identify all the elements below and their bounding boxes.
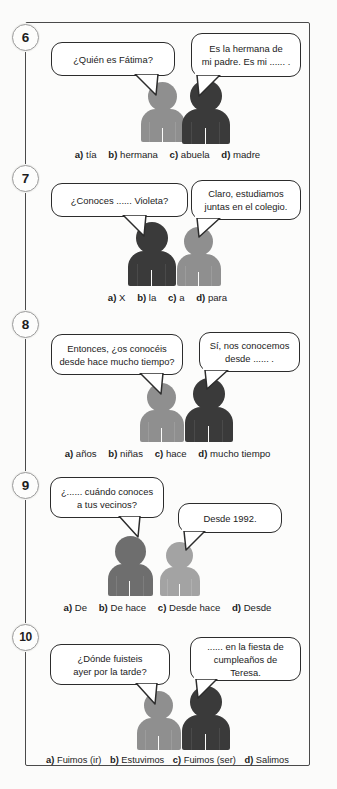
speech-bubble-8-answer-line-1: Sí, nos conocemos [210, 339, 290, 352]
option-7-a[interactable]: a) X [108, 292, 126, 303]
figure-arm-seam-left [185, 266, 186, 286]
option-letter: a) [65, 448, 74, 459]
option-letter: b) [137, 292, 146, 303]
figure-arm-seam-right [219, 728, 220, 750]
option-letter: c) [173, 755, 181, 765]
option-text: mucho tiempo [210, 448, 270, 459]
option-letter: d) [198, 448, 207, 459]
figure-body-seam [198, 272, 199, 286]
option-letter: c) [158, 602, 167, 613]
figure-body [108, 564, 153, 596]
speech-bubble-10-question-line-2: ayer por la tarde? [73, 665, 146, 678]
speech-bubble-6-question-line-1: ¿Quién es Fátima? [73, 53, 153, 66]
option-8-b[interactable]: b) niñas [108, 448, 143, 459]
speech-bubble-tail-9-answer [180, 530, 206, 552]
figure-body-seam [205, 734, 206, 750]
speech-bubble-tail-6-question [134, 73, 160, 95]
figure-9-left [108, 536, 153, 596]
option-text: la [149, 292, 156, 303]
figure-body-seam [162, 128, 163, 142]
speech-bubble-tail-7-question [122, 214, 148, 236]
exercise-number-badge-9: 9 [12, 472, 39, 499]
speech-bubble-10-answer: ...... en la fiesta de cumpleaños de Ter… [190, 637, 301, 681]
option-text: madre [233, 149, 260, 160]
figure-body-seam [129, 581, 130, 596]
speech-bubble-10-answer-line-2: cumpleaños de Teresa. [198, 653, 293, 679]
option-8-c[interactable]: c) hace [155, 448, 187, 459]
speech-bubble-9-answer-line-1: Desde 1992. [203, 512, 256, 525]
option-6-a[interactable]: a) tía [75, 149, 97, 160]
option-text: De [75, 602, 87, 613]
figure-arm-seam-right [211, 266, 212, 286]
figure-arm-seam-right [175, 122, 176, 142]
answer-options-9: a) De b) De hace c) Desde hace d) Desde [25, 602, 310, 613]
answer-options-7: a) X b) la c) a d) para [25, 292, 310, 303]
option-text: hermana [120, 149, 158, 160]
option-7-c[interactable]: c) a [168, 292, 185, 303]
figure-arm-seam-left [167, 579, 168, 596]
figure-arm-seam-left [145, 730, 146, 750]
figure-arm-seam-right [171, 730, 172, 750]
speech-bubble-9-question: ¿...... cuándo conoces a tus vecinos? [50, 477, 164, 518]
option-7-d[interactable]: d) para [196, 292, 227, 303]
option-text: años [76, 448, 97, 459]
speech-bubble-7-answer-line-1: Claro, estudiamos [205, 187, 288, 200]
option-text: hace [166, 448, 187, 459]
option-6-b[interactable]: b) hermana [108, 149, 158, 160]
exercise-number-badge-8: 8 [12, 311, 39, 338]
option-letter: b) [99, 602, 108, 613]
option-9-c[interactable]: c) Desde hace [158, 602, 220, 613]
option-10-a[interactable]: a) Fuimos (ir) [46, 755, 101, 765]
option-letter: a) [75, 149, 84, 160]
option-text: niñas [120, 448, 143, 459]
option-10-b[interactable]: b) Estuvimos [110, 755, 164, 765]
speech-bubble-10-answer-line-1: ...... en la fiesta de [198, 640, 293, 653]
figure-arm-seam-right [191, 579, 192, 596]
figure-body-seam [161, 428, 162, 442]
option-letter: d) [221, 149, 230, 160]
figure-arm-seam-left [149, 122, 150, 142]
answer-options-6: a) tía b) hermana c) abuela d) madre [25, 149, 310, 160]
speech-bubble-6-answer-line-1: Es la hermana de [202, 42, 291, 55]
speech-bubble-tail-8-question [139, 372, 165, 394]
exercise-number-badge-6: 6 [12, 24, 39, 51]
speech-bubble-6-answer-line-2: mi padre. Es mi ...... . [202, 55, 291, 68]
figure-arm-seam-left [194, 420, 195, 442]
speech-bubble-6-answer: Es la hermana de mi padre. Es mi ...... … [191, 33, 301, 77]
speech-bubble-8-question-line-2: desde hace mucho tiempo? [59, 355, 174, 368]
option-7-b[interactable]: b) la [137, 292, 156, 303]
option-8-a[interactable]: a) años [65, 448, 97, 459]
option-text: a [179, 292, 184, 303]
option-text: Desde [244, 602, 272, 613]
worksheet-page: 6 ¿Quién es Fátima? Es la hermana de mi … [0, 0, 337, 789]
option-text: Fuimos (ir) [57, 755, 101, 765]
option-6-d[interactable]: d) madre [221, 149, 260, 160]
option-9-d[interactable]: d) Desde [232, 602, 271, 613]
option-letter: a) [64, 602, 73, 613]
option-text: para [208, 292, 227, 303]
option-6-c[interactable]: c) abuela [170, 149, 210, 160]
speech-bubble-tail-9-question [118, 515, 144, 537]
figure-body-seam [158, 736, 159, 750]
speech-bubble-tail-10-question [135, 682, 161, 704]
exercise-number-badge-7: 7 [12, 165, 39, 192]
option-letter: d) [232, 602, 241, 613]
figure-arm-seam-right [174, 422, 175, 442]
speech-bubble-9-question-line-2: a tus vecinos? [61, 498, 153, 511]
option-10-d[interactable]: d) Salimos [244, 755, 288, 765]
option-8-d[interactable]: d) mucho tiempo [198, 448, 270, 459]
option-letter: b) [108, 448, 117, 459]
figure-arm-seam-left [191, 728, 192, 750]
option-text: Estuvimos [121, 755, 164, 765]
figure-arm-seam-right [222, 420, 223, 442]
speech-bubble-tail-8-answer [201, 369, 227, 391]
option-10-c[interactable]: c) Fuimos (ser) [173, 755, 236, 765]
option-letter: c) [170, 149, 179, 160]
option-letter: d) [196, 292, 205, 303]
option-9-b[interactable]: b) De hace [99, 602, 146, 613]
option-9-a[interactable]: a) De [64, 602, 87, 613]
figure-body-seam [179, 584, 180, 596]
speech-bubble-10-question: ¿Dónde fuisteis ayer por la tarde? [50, 644, 170, 685]
figure-body-seam [208, 426, 209, 442]
figure-arm-seam-left [137, 264, 138, 286]
